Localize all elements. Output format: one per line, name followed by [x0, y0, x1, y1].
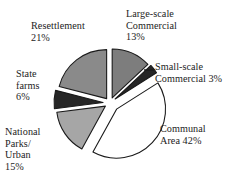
slice-label-small-scale-commercial: Small-scale Commercial 3% — [155, 61, 241, 84]
slice-label-national-parks-urban: National Parks/ Urban 15% — [5, 126, 61, 172]
pie-slice-resettlement — [59, 50, 106, 99]
slice-label-state-farms: State farms 6% — [16, 68, 62, 103]
pie-slices-group — [54, 49, 166, 158]
slice-label-resettlement: Resettlement 21% — [31, 20, 117, 43]
slice-label-communal-area: Communal Area 42% — [160, 123, 240, 146]
pie-chart: Resettlement 21% Large-scale Commercial … — [0, 0, 241, 196]
slice-label-large-scale-commercial: Large-scale Commercial 13% — [126, 8, 200, 43]
